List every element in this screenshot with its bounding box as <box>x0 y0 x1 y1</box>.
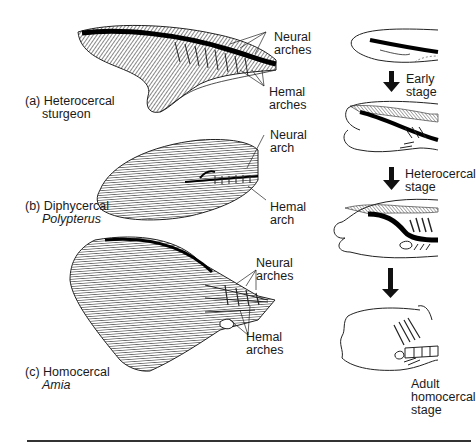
stage-heterocercal-label: Heterocercal stage <box>405 168 476 194</box>
stage-line: stage <box>411 404 476 417</box>
homocercal-tail-drawing <box>70 237 275 371</box>
annotation-a-neural-arches: Neural arches <box>274 31 312 57</box>
stage-line: stage <box>406 86 437 99</box>
panel-b-prefix: (b) <box>25 199 40 213</box>
panel-a-type: Heterocercal <box>44 94 115 108</box>
stage-line: stage <box>405 181 476 194</box>
annotation-line: arches <box>274 44 312 57</box>
panel-a-taxon: sturgeon <box>25 108 115 121</box>
stage-adult-homocercal-label: Adult homocercal stage <box>411 378 476 417</box>
panel-a-label: (a) Heterocercal sturgeon <box>25 95 115 121</box>
panel-c-taxon: Amia <box>25 379 110 392</box>
annotation-line: arches <box>246 344 284 357</box>
annotation-line: arches <box>256 270 294 283</box>
panel-c-label: (c) Homocercal Amia <box>25 366 110 392</box>
panel-c-prefix: (c) <box>25 365 40 379</box>
diphycercal-tail-drawing <box>97 135 266 220</box>
annotation-a-hemal-arches: Hemal arches <box>269 86 307 112</box>
panel-b-taxon: Polypterus <box>25 213 109 226</box>
panel-b-type: Diphycercal <box>44 199 109 213</box>
panel-a-prefix: (a) <box>25 94 40 108</box>
annotation-c-hemal-arches: Hemal arches <box>246 331 284 357</box>
annotation-line: arch <box>270 142 307 155</box>
panel-b-label: (b) Diphycercal Polypterus <box>25 200 109 226</box>
annotation-b-hemal-arch: Hemal arch <box>270 201 306 227</box>
annotation-b-neural-arch: Neural arch <box>270 129 307 155</box>
annotation-c-neural-arches: Neural arches <box>256 257 294 283</box>
panel-c-type: Homocercal <box>43 365 110 379</box>
annotation-line: arches <box>269 99 307 112</box>
bottom-divider <box>27 440 471 442</box>
stage-early-label: Early stage <box>406 73 437 99</box>
annotation-line: arch <box>270 214 306 227</box>
